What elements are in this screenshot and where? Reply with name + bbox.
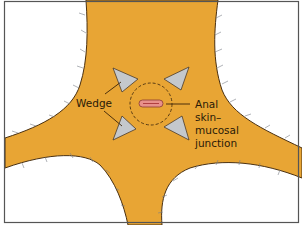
diagram-frame: Wedge Anal skin– mucosal junction xyxy=(0,0,302,225)
anal-wedge-diagram: Wedge Anal skin– mucosal junction xyxy=(0,0,302,225)
junction-label-line3: mucosal xyxy=(195,124,239,136)
wedge-label: Wedge xyxy=(76,97,112,109)
junction-label-line4: junction xyxy=(194,137,237,149)
junction-label-line2: skin– xyxy=(195,111,221,123)
junction-label-line1: Anal xyxy=(195,98,218,110)
